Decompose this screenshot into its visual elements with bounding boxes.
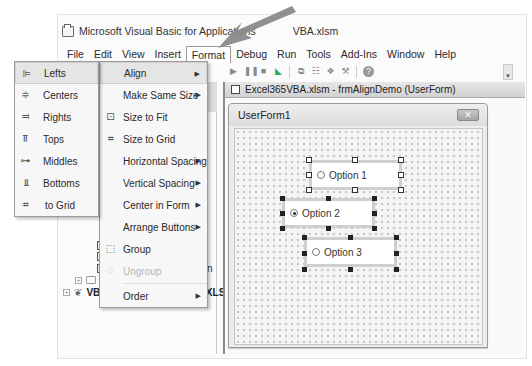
submenu-arrow-icon: ▶ [196,84,201,106]
menu-help[interactable]: Help [429,46,461,63]
submenu-arrow-icon: ▶ [196,172,201,194]
menu-item-vertical-spacing[interactable]: Vertical Spacing ▶ [100,172,207,194]
resize-handle[interactable] [280,226,285,231]
menu-edit-label: Edit [94,48,112,60]
menu-item-label: Horizontal Spacing [100,156,207,167]
help-icon[interactable]: ? [363,66,374,77]
align-middles-icon: ⊶ [20,155,31,166]
option-button-3[interactable]: Option 3 [304,237,397,267]
resize-handle[interactable] [280,196,285,201]
menu-debug[interactable]: Debug [231,46,272,63]
size-to-fit-icon: ⊡ [105,111,116,122]
menu-insert[interactable]: Insert [150,46,186,63]
resize-handle[interactable] [306,187,312,193]
align-centers-icon: ≑ [20,89,31,100]
toolbox-icon[interactable]: ⚒ [341,67,350,76]
window-title-filename: VBA.xlsm [293,25,339,37]
resize-handle[interactable] [348,235,353,240]
submenu-arrow-icon: ▶ [195,63,200,85]
align-lefts-icon: ⊫ [21,68,32,79]
option-button-1[interactable]: Option 1 [309,160,402,190]
expand-icon[interactable]: + [63,289,70,296]
resize-handle[interactable] [326,196,331,201]
resize-handle[interactable] [398,157,404,163]
menu-file[interactable]: File [62,46,89,63]
toolbar-separator [356,66,357,78]
resize-handle[interactable] [348,267,353,272]
standard-toolbar: ▶ ❚❚ ■ ◣ ⧉ ☷ ❖ ⚒ ? [205,63,523,80]
resize-handle[interactable] [302,235,307,240]
menu-item-label: Vertical Spacing [100,178,195,189]
menu-item-align-lefts[interactable]: ⊫ Lefts [15,62,98,84]
submenu-arrow-icon: ▶ [196,150,201,172]
menu-item-align-middles[interactable]: ⊶ Middles [15,150,98,172]
menu-item-horizontal-spacing[interactable]: Horizontal Spacing ▶ [100,150,207,172]
menu-edit[interactable]: Edit [89,46,117,63]
menu-item-align-centers[interactable]: ≑ Centers [15,84,98,106]
submenu-arrow-icon: ▶ [196,285,201,307]
menu-item-align-to-grid[interactable]: ⌗ to Grid [15,194,98,216]
menu-item-group[interactable]: ⬚ Group [100,238,207,260]
menu-debug-label: Debug [236,48,267,60]
resize-handle[interactable] [352,187,358,193]
menu-item-align-bottoms[interactable]: ⫫ Bottoms [15,172,98,194]
menu-item-align-tops[interactable]: ⫪ Tops [15,128,98,150]
menu-item-label: Make Same Size [100,90,199,101]
resize-handle[interactable] [372,211,377,216]
reset-icon[interactable]: ■ [259,67,268,76]
resize-handle[interactable] [352,157,358,163]
align-submenu: ⊫ Lefts ≑ Centers ⫤ Rights ⫪ Tops ⊶ Midd… [14,61,99,217]
break-icon[interactable]: ❚❚ [244,67,253,76]
align-rights-icon: ⫤ [20,111,31,122]
resize-handle[interactable] [372,226,377,231]
menu-item-label: Center in Form [100,200,190,211]
menu-item-order[interactable]: Order ▶ [100,285,207,307]
menu-item-center-in-form[interactable]: Center in Form ▶ [100,194,207,216]
window-title: Microsoft Visual Basic for Applications [79,25,256,37]
resize-handle[interactable] [326,226,331,231]
title-bar: Microsoft Visual Basic for Applications … [62,22,338,40]
toolbar-overflow-button[interactable]: ▾ [503,64,513,80]
align-bottoms-icon: ⫫ [20,177,31,188]
menu-view[interactable]: View [117,46,150,63]
option-button-2[interactable]: Option 2 [282,198,375,228]
menu-item-size-to-fit[interactable]: ⊡ Size to Fit [100,106,207,128]
menu-format[interactable]: Format [186,46,231,63]
menu-tools-label: Tools [306,48,331,60]
submenu-arrow-icon: ▶ [196,216,201,238]
menu-view-label: View [122,48,145,60]
menu-help-label: Help [434,48,456,60]
resize-handle[interactable] [306,157,312,163]
menu-item-align-rights[interactable]: ⫤ Rights [15,106,98,128]
menu-window[interactable]: Window [382,46,429,63]
resize-handle[interactable] [280,211,285,216]
menu-run[interactable]: Run [272,46,301,63]
resize-handle[interactable] [398,172,404,178]
resize-handle[interactable] [372,196,377,201]
resize-handle[interactable] [302,267,307,272]
expand-icon[interactable]: + [75,277,82,284]
resize-handle[interactable] [394,235,399,240]
resize-handle[interactable] [394,251,399,256]
userform-caption: UserForm1 [238,109,291,121]
close-icon[interactable]: ✕ [457,109,479,121]
menu-item-align[interactable]: Align ▶ [100,62,207,84]
designer-title: Excel365VBA.xlsm - frmAlignDemo (UserFor… [245,84,456,95]
run-icon[interactable]: ▶ [229,67,238,76]
menu-item-arrange-buttons[interactable]: Arrange Buttons ▶ [100,216,207,238]
menu-item-size-to-grid[interactable]: ⌗ Size to Grid [100,128,207,150]
resize-handle[interactable] [398,187,404,193]
resize-handle[interactable] [394,267,399,272]
vbe-app-icon [62,26,74,37]
menu-item-make-same-size[interactable]: Make Same Size ▶ [100,84,207,106]
resize-handle[interactable] [306,172,312,178]
resize-handle[interactable] [302,251,307,256]
project-explorer-icon[interactable]: ⧉ [296,67,305,76]
properties-icon[interactable]: ☷ [311,67,320,76]
menu-format-label: Format [192,49,225,61]
object-browser-icon[interactable]: ❖ [326,67,335,76]
menu-add-ins[interactable]: Add-Ins [336,46,382,63]
submenu-arrow-icon: ▶ [196,194,201,216]
design-mode-icon[interactable]: ◣ [274,67,283,76]
menu-tools[interactable]: Tools [301,46,336,63]
